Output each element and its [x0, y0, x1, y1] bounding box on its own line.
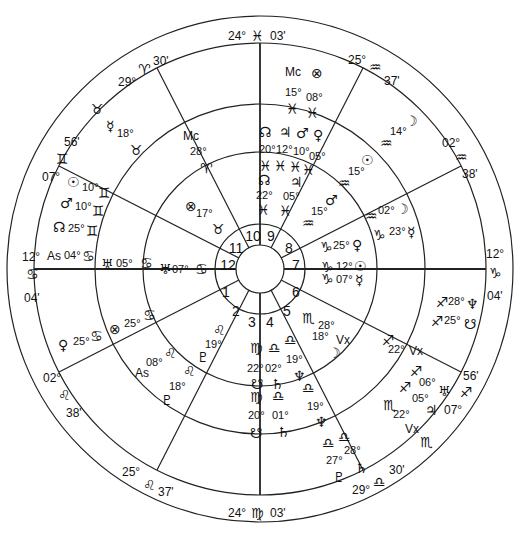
- mercury-icon: ☿: [407, 224, 416, 240]
- cusp8-degree: 02°: [442, 136, 460, 150]
- middle-mercury-degree: 23°: [389, 225, 406, 237]
- cusp3-minutes: 37': [158, 485, 174, 499]
- middle-venus-degree: 05°: [309, 150, 326, 162]
- neptune-icon: ♆: [315, 414, 328, 430]
- scorpio-sign-icon: ♏: [302, 310, 315, 326]
- jupiter-icon: ♃: [425, 402, 438, 418]
- cusp4-degree: 24°: [228, 506, 246, 520]
- libra-sign-icon: ♎: [373, 474, 386, 490]
- south-node-icon: ☋: [251, 376, 263, 392]
- cusp5-degree: 29°: [352, 483, 370, 497]
- sagittarius-sign-icon: ♐: [436, 294, 449, 310]
- middle-vx-label: Vx: [409, 344, 423, 358]
- cusp3-degree: 25°: [122, 465, 140, 479]
- aquarius-sign-icon: ♒: [365, 208, 378, 224]
- inner-south-node-degree: 22°: [247, 362, 264, 374]
- taurus-sign-icon: ♉: [212, 221, 225, 237]
- sagittarius-sign-icon: ♐: [431, 313, 444, 329]
- outer-mercury-degree: 18°: [117, 127, 134, 139]
- inner-pof-degree: 17°: [196, 207, 213, 219]
- outer-neptune-degree: 28°: [448, 295, 465, 307]
- pluto-icon: ♇: [333, 469, 346, 485]
- house-number-11: 11: [229, 240, 244, 256]
- jupiter-icon: ♃: [279, 124, 292, 140]
- inner-sun-degree: 12°: [336, 260, 353, 272]
- uranus-icon: ♅: [101, 256, 114, 272]
- cusp6-degree: 07°: [444, 403, 462, 417]
- aries-sign-icon: ♈: [138, 61, 151, 77]
- pisces-sign-icon: ♓: [279, 203, 292, 219]
- capricorn-sign-icon: ♑: [373, 227, 386, 243]
- cusp10-minutes: 03': [270, 29, 286, 43]
- house-number-3: 3: [248, 314, 256, 330]
- pluto-icon: ♇: [197, 349, 210, 365]
- cusp-line-11: [157, 68, 249, 248]
- pisces-sign-icon: ♓: [257, 202, 270, 218]
- north-node-icon: ☊: [53, 219, 65, 235]
- inner-jupiter-degree: 05°: [283, 190, 300, 202]
- outer-saturn-degree: 28°: [344, 444, 361, 456]
- middle-vx-degree: 22°: [388, 343, 405, 355]
- cusp12-degree: 07°: [42, 170, 60, 184]
- sagittarius-sign-icon: ♐: [399, 379, 412, 395]
- uranus-icon: ♅: [159, 261, 172, 277]
- middle-moon-degree: 02°: [378, 204, 395, 216]
- cusp7-degree: 12°: [486, 247, 504, 261]
- mercury-icon: ☿: [355, 272, 364, 288]
- libra-sign-icon: ♎: [284, 332, 297, 348]
- sun-icon: ☉: [67, 174, 80, 190]
- outer-pof-degree: 08°: [306, 91, 323, 103]
- north-node-icon: ☊: [258, 172, 270, 188]
- outer-mars-degree: 10°: [75, 200, 92, 212]
- south-node-icon: ☋: [250, 425, 262, 441]
- house-number-8: 8: [285, 240, 293, 256]
- venus-icon: ♀: [313, 127, 323, 143]
- astrology-chart-wheel: 1 2 3 4 5 6 7 8 9 10 11 12 24° ♓ 03' 29°…: [0, 0, 522, 540]
- inner-neptune-degree: 19°: [286, 353, 303, 365]
- gemini-sign-icon: ♊: [92, 203, 105, 219]
- cancer-sign-icon: ♋: [143, 307, 156, 323]
- house-number-5: 5: [283, 303, 291, 319]
- outer-pluto-degree: 27°: [326, 454, 343, 466]
- jupiter-icon: ♃: [290, 174, 303, 190]
- inner-saturn-degree: 02°: [265, 362, 282, 374]
- mercury-icon: ☿: [106, 118, 115, 134]
- aquarius-sign-icon: ♒: [455, 149, 468, 165]
- mars-icon: ♂: [296, 125, 309, 141]
- middle-jupiter-degree: 12°: [276, 143, 293, 155]
- neptune-icon: ♆: [293, 368, 306, 384]
- middle-saturn-degree: 01°: [272, 409, 289, 421]
- leo-sign-icon: ♌: [183, 363, 196, 379]
- gemini-sign-icon: ♊: [98, 185, 111, 201]
- libra-sign-icon: ♎: [268, 340, 281, 356]
- outer-mc-label: Mc: [285, 65, 301, 79]
- gemini-sign-icon: ♊: [56, 151, 69, 167]
- aquarius-sign-icon: ♒: [302, 215, 315, 231]
- house-number-7: 7: [292, 257, 300, 273]
- house-number-4: 4: [266, 314, 274, 330]
- venus-icon: ♀: [352, 237, 362, 253]
- aquarius-sign-icon-2: ♒: [369, 59, 382, 75]
- outer-south-node-degree: 25°: [444, 314, 461, 326]
- middle-as-label: As: [135, 366, 149, 380]
- leo-sign-icon: ♌: [58, 387, 71, 403]
- cancer-sign-icon: ♋: [140, 255, 153, 271]
- outer-sun-degree: 10°: [82, 181, 99, 193]
- moon-icon: ☽: [396, 201, 409, 217]
- inner-mercury-degree: 07°: [336, 273, 353, 285]
- outer-node-degree: 25°: [68, 222, 85, 234]
- cancer-sign-icon: ♋: [90, 328, 103, 344]
- inner-node-degree: 22°: [256, 189, 273, 201]
- cusp7-minutes: 04': [487, 289, 503, 303]
- middle-as-degree: 08°: [146, 356, 163, 368]
- libra-sign-icon: ♎: [338, 429, 351, 445]
- outer-as-label: As: [47, 249, 61, 263]
- part-of-fortune-icon: ⊗: [185, 198, 197, 214]
- middle-pof-degree: 25°: [124, 317, 141, 329]
- center-hole: [237, 246, 283, 292]
- cusp8-minutes: 38': [462, 167, 478, 181]
- cusp1-minutes: 04': [24, 291, 40, 305]
- middle-neptune-degree: 19°: [307, 400, 324, 412]
- moon-icon: ☽: [405, 113, 418, 129]
- house-number-10: 10: [245, 228, 261, 244]
